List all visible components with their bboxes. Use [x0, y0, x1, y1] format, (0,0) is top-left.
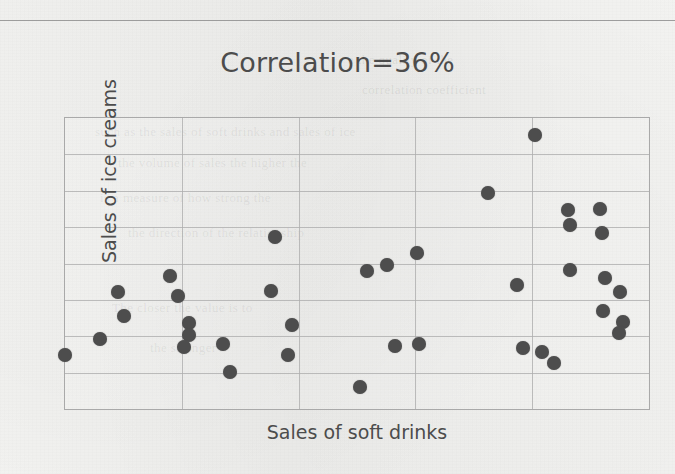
scatter-point [388, 339, 402, 353]
scatter-point [111, 285, 125, 299]
scatter-point [561, 203, 575, 217]
scatter-point [117, 309, 131, 323]
gridline-vertical [532, 118, 533, 409]
scatter-point [535, 345, 549, 359]
gridline-vertical [182, 118, 183, 409]
scatter-point [516, 341, 530, 355]
scatter-point [510, 278, 524, 292]
scatter-point [613, 285, 627, 299]
gridline-horizontal [65, 373, 649, 374]
scatter-point [563, 263, 577, 277]
scatter-point [547, 356, 561, 370]
scatter-plot-area [64, 117, 650, 410]
scatter-point [171, 289, 185, 303]
scatter-point [596, 304, 610, 318]
scatter-point [598, 271, 612, 285]
scatter-point [563, 218, 577, 232]
scatter-point [410, 246, 424, 260]
scatter-point [593, 202, 607, 216]
scatter-point [412, 337, 426, 351]
scatter-point [163, 269, 177, 283]
gridline-horizontal [65, 154, 649, 155]
scatter-point [281, 348, 295, 362]
scatter-point [216, 337, 230, 351]
gridline-horizontal [65, 336, 649, 337]
x-axis-label: Sales of soft drinks [64, 421, 650, 443]
scatter-point [360, 264, 374, 278]
page-top-rule [0, 20, 675, 21]
gridline-vertical [415, 118, 416, 409]
gridline-horizontal [65, 264, 649, 265]
scatter-point [177, 340, 191, 354]
scatter-point [268, 230, 282, 244]
scatter-point [285, 318, 299, 332]
gridline-horizontal [65, 191, 649, 192]
y-axis-label: Sales of ice creams [98, 56, 120, 286]
scatter-point [93, 332, 107, 346]
scatter-point [380, 258, 394, 272]
gridline-vertical [299, 118, 300, 409]
scatter-point [528, 128, 542, 142]
scatter-point [595, 226, 609, 240]
gridline-horizontal [65, 300, 649, 301]
scatter-point [58, 348, 72, 362]
gridline-horizontal [65, 227, 649, 228]
scatter-point [264, 284, 278, 298]
scatter-point [612, 326, 626, 340]
scatter-point [223, 365, 237, 379]
scatter-point [481, 186, 495, 200]
scatter-point [353, 380, 367, 394]
